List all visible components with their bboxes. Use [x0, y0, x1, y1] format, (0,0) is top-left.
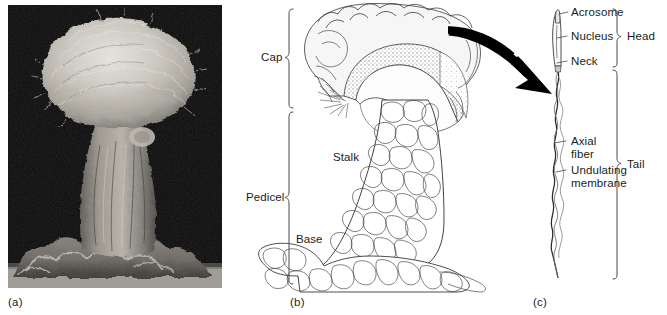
label-base: Base: [296, 233, 323, 246]
panel-c-letter: (c): [533, 296, 547, 308]
figure-root: (a): [0, 0, 667, 315]
label-axial-fiber-line2: fiber: [571, 148, 594, 161]
panel-b-letter: (b): [290, 296, 305, 308]
label-nucleus: Nucleus: [571, 30, 613, 43]
connector-arrow: [448, 30, 552, 94]
label-undulating-membrane-line1: Undulating: [571, 164, 627, 177]
bracket-label-pedicel: Pedicel: [246, 191, 284, 204]
label-neck: Neck: [571, 55, 598, 68]
label-undulating-membrane-line2: membrane: [571, 177, 627, 190]
bracket-label-head: Head: [627, 30, 655, 43]
panel-a-letter: (a): [8, 296, 23, 308]
bracket-label-tail: Tail: [627, 158, 645, 171]
bracket-label-cap: Cap: [261, 51, 282, 64]
panel-a-micrograph: [8, 5, 222, 288]
label-stalk: Stalk: [333, 151, 359, 164]
label-axial-fiber-line1: Axial: [571, 135, 596, 148]
label-acrosome: Acrosome: [571, 6, 624, 19]
